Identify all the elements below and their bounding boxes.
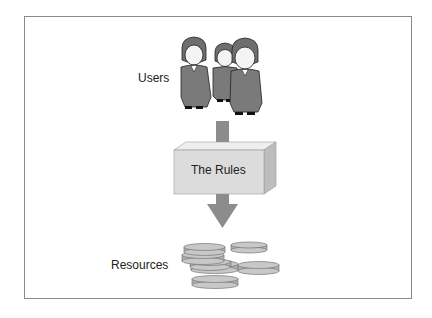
users-label: Users [138, 71, 169, 85]
resources-label: Resources [111, 258, 168, 272]
coins-icon [182, 242, 279, 289]
rules-label: The Rules [191, 163, 246, 177]
users-icon [181, 37, 262, 115]
output-arrow [207, 194, 238, 228]
diagram-graphics [0, 0, 432, 318]
